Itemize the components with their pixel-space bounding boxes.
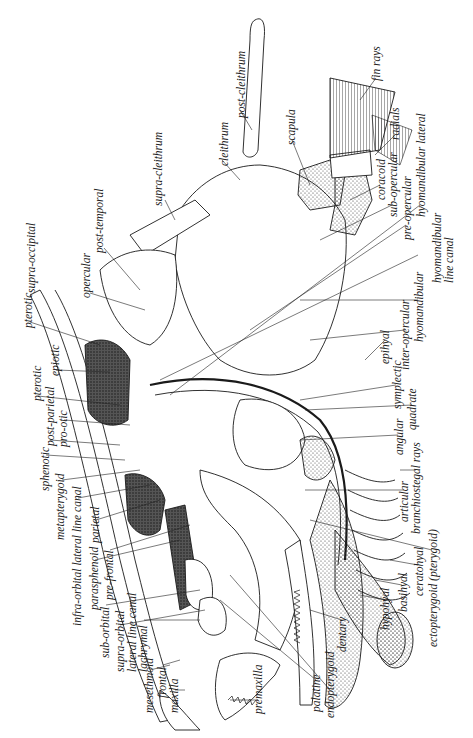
label-dentary: dentary <box>337 617 349 652</box>
label-hyomandibular-lateral: hyomandibular lateral <box>416 113 428 217</box>
label-hyomandibular: hyomandibular <box>414 272 426 342</box>
label-quadrate: quadrate <box>407 388 419 430</box>
label-opercular: opercular <box>81 253 93 298</box>
label-premaxilla: premaxilla <box>253 665 265 714</box>
label-supra-occipital: supra-occipital <box>26 223 38 293</box>
label-endopterygoid: endopterygoid <box>325 652 337 718</box>
label-basihyal: basihyal <box>398 573 410 612</box>
label-ectopterygoid: ectopterygoid (pterygoid) <box>428 529 440 647</box>
label-maxilla: maxilla <box>169 679 181 714</box>
label-mesethmoid: mesethmoid <box>144 658 156 713</box>
label-branchiostegal-rays: branchiostegal rays <box>411 442 423 534</box>
label-inter-opercular: inter-opercular <box>400 300 412 370</box>
label-ceratohyal: ceratohyal <box>414 547 426 596</box>
label-pterotic-upper: pterotic <box>23 293 35 328</box>
label-sub-orbital: sub-orbital <box>100 607 112 658</box>
label-angular: angular <box>394 419 406 455</box>
label-cleithrum: cleithrum <box>219 122 231 166</box>
label-frontal: frontal <box>157 667 169 698</box>
label-radials: radials <box>390 107 402 140</box>
label-palatine: palatine <box>311 674 323 712</box>
label-scapula: scapula <box>286 109 298 145</box>
label-sub-opercular: sub-opercular <box>388 152 400 217</box>
label-post-parietal: post-parietal <box>45 387 57 446</box>
label-sphenotic: sphenotic <box>40 447 52 491</box>
label-epiotic: epiotic <box>50 345 62 376</box>
label-epihyal: epihyal <box>380 330 392 364</box>
label-infra-orbital-lateral-line-canal: infra-orbital lateral line canal <box>72 486 84 626</box>
label-metapterygoid: metapterygoid <box>55 474 67 540</box>
label-post-temporal: post-temporal <box>94 188 106 253</box>
label-pro-otic: pro-otic <box>58 410 70 447</box>
label-parietal: parietal <box>90 507 102 543</box>
label-fin-rays: fin rays <box>371 46 383 81</box>
label-hypohyal: hypohyal <box>380 588 392 630</box>
label-pterotic-lower: pterotic <box>32 366 44 401</box>
label-hyomandibular-line-canal: hyomandibular line canal <box>431 213 455 283</box>
label-supra-cleithrum: supra-cleithrum <box>153 132 165 206</box>
label-pre-opercular: pre-opercular <box>402 176 414 240</box>
label-articular: articular <box>399 481 411 522</box>
label-supra-orbital-lateral-line-canal: supra-orbital lateral line canal <box>114 593 138 672</box>
fish-skull-diagram: post-cleithrum cleithrum supra-cleithrum… <box>0 0 473 738</box>
label-post-cleithrum: post-cleithrum <box>236 51 248 118</box>
label-coracoid: coracoid <box>376 159 388 200</box>
label-parasphenoid: parasphenoid <box>89 547 101 610</box>
